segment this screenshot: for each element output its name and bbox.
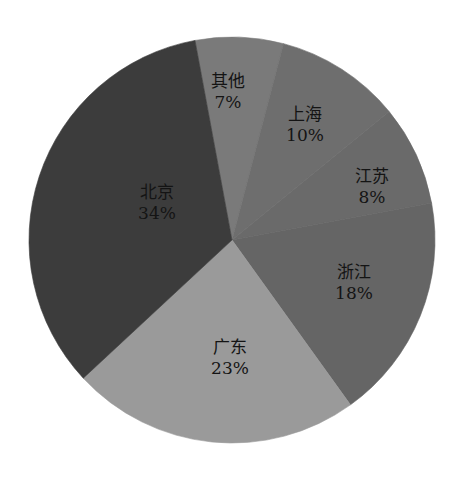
slice-percent: 8% (355, 187, 389, 208)
slice-name: 北京 (138, 182, 176, 203)
slice-label-shanghai: 上海 10% (286, 104, 324, 146)
slice-percent: 23% (211, 358, 249, 379)
slice-name: 其他 (211, 71, 245, 92)
slice-name: 广东 (211, 337, 249, 358)
slice-label-other: 其他 7% (211, 71, 245, 113)
slice-label-guangdong: 广东 23% (211, 337, 249, 379)
slice-label-beijing: 北京 34% (138, 182, 176, 224)
slice-percent: 34% (138, 203, 176, 224)
slice-name: 浙江 (335, 262, 373, 283)
slice-percent: 18% (335, 283, 373, 304)
slice-name: 江苏 (355, 166, 389, 187)
slice-label-jiangsu: 江苏 8% (355, 166, 389, 208)
slice-percent: 10% (286, 125, 324, 146)
slice-label-zhejiang: 浙江 18% (335, 262, 373, 304)
slice-name: 上海 (286, 104, 324, 125)
slice-percent: 7% (211, 92, 245, 113)
